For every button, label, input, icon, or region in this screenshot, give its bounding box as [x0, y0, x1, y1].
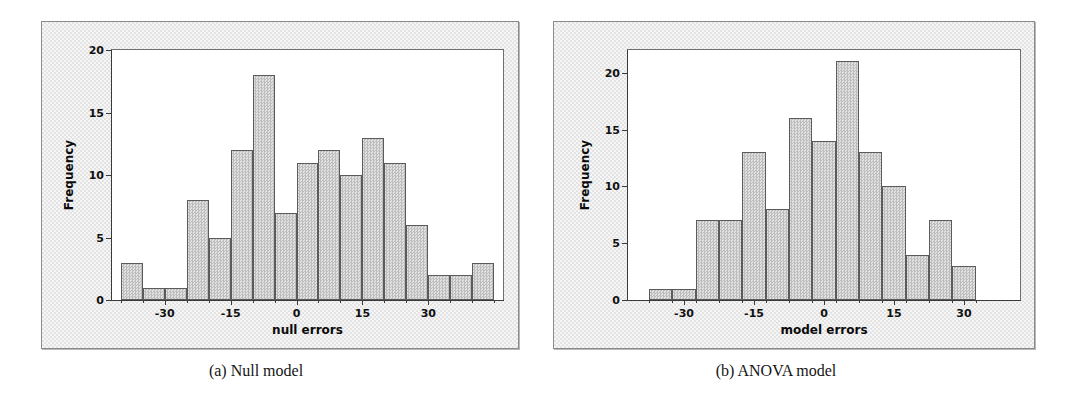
- figure-container: 05101520 -30-1501530 null errors Frequen…: [0, 0, 1070, 417]
- y-axis-null-model: 05101520: [111, 50, 112, 300]
- caption-null-model: (a) Null model: [209, 362, 303, 380]
- x-axis-tick-label: 30: [956, 307, 971, 320]
- x-axis-minor-tick: [812, 300, 813, 303]
- y-axis-tick-label: 0: [612, 294, 620, 307]
- x-axis-tick: [684, 300, 685, 305]
- histogram-bar: [143, 288, 165, 301]
- x-axis-minor-tick: [976, 300, 977, 303]
- x-axis-minor-tick: [187, 300, 188, 303]
- x-axis-tick-label: 15: [355, 307, 370, 320]
- y-axis-tick: [622, 73, 627, 74]
- plot-frame-null-model: [111, 49, 504, 301]
- y-axis-tick-label: 5: [96, 231, 104, 244]
- x-axis-tick-label: -30: [155, 307, 175, 320]
- histogram-bar: [696, 220, 719, 300]
- histogram-bar: [719, 220, 742, 300]
- x-axis-tick: [894, 300, 895, 305]
- x-axis-anova-model: -30-1501530: [627, 300, 1021, 301]
- x-axis-minor-tick: [121, 300, 122, 303]
- y-axis-title-anova-model: Frequency: [578, 140, 592, 210]
- x-axis-tick-label: -30: [674, 307, 694, 320]
- plot-area-null-model: [112, 50, 503, 300]
- histogram-bar: [253, 75, 275, 300]
- x-axis-minor-tick: [494, 300, 495, 303]
- x-axis-title-null-model: null errors: [272, 323, 343, 337]
- y-axis-tick-label: 0: [96, 294, 104, 307]
- histogram-bar: [882, 186, 905, 300]
- x-axis-minor-tick: [428, 300, 429, 303]
- x-axis-minor-tick: [836, 300, 837, 303]
- y-axis-tick: [622, 243, 627, 244]
- x-axis-minor-tick: [384, 300, 385, 303]
- bars-null-model: [112, 50, 503, 300]
- x-axis-minor-tick: [340, 300, 341, 303]
- x-axis-tick-label: -15: [221, 307, 241, 320]
- x-axis-minor-tick: [742, 300, 743, 303]
- histogram-bar: [906, 255, 929, 300]
- y-axis-tick-label: 10: [89, 169, 104, 182]
- x-axis-minor-tick: [859, 300, 860, 303]
- x-axis-minor-tick: [472, 300, 473, 303]
- x-axis-tick: [824, 300, 825, 305]
- x-axis-minor-tick: [450, 300, 451, 303]
- histogram-bar: [766, 209, 789, 300]
- x-axis-minor-tick: [766, 300, 767, 303]
- x-axis-tick-label: -15: [744, 307, 764, 320]
- histogram-panel-null-model: 05101520 -30-1501530 null errors Frequen…: [41, 21, 519, 349]
- x-axis-minor-tick: [906, 300, 907, 303]
- histogram-bar: [428, 275, 450, 300]
- y-axis-tick: [106, 113, 111, 114]
- histogram-bar: [406, 225, 428, 300]
- caption-anova-model: (b) ANOVA model: [716, 362, 837, 380]
- y-axis-tick-label: 15: [89, 106, 104, 119]
- y-axis-tick-label: 20: [89, 44, 104, 57]
- x-axis-tick-label: 30: [421, 307, 436, 320]
- x-axis-null-model: -30-1501530: [111, 300, 504, 301]
- x-axis-minor-tick: [789, 300, 790, 303]
- x-axis-minor-tick: [882, 300, 883, 303]
- histogram-bar: [318, 150, 340, 300]
- x-axis-tick: [754, 300, 755, 305]
- histogram-bar: [789, 118, 812, 300]
- y-axis-anova-model: 05101520: [627, 50, 628, 300]
- x-axis-minor-tick: [297, 300, 298, 303]
- y-axis-tick: [106, 238, 111, 239]
- histogram-bar: [859, 152, 882, 300]
- histogram-bar: [812, 141, 835, 300]
- bars-anova-model: [628, 50, 1020, 300]
- x-axis-minor-tick: [143, 300, 144, 303]
- x-axis-tick: [964, 300, 965, 305]
- histogram-bar: [340, 175, 362, 300]
- y-axis-tick-label: 15: [605, 123, 620, 136]
- plot-frame-anova-model: [627, 49, 1021, 301]
- histogram-bar: [929, 220, 952, 300]
- y-axis-tick: [622, 186, 627, 187]
- y-axis-tick: [622, 130, 627, 131]
- histogram-bar: [275, 213, 297, 301]
- histogram-bar: [384, 163, 406, 301]
- y-axis-tick: [106, 50, 111, 51]
- y-axis-tick-label: 20: [605, 66, 620, 79]
- x-axis-minor-tick: [696, 300, 697, 303]
- x-axis-minor-tick: [231, 300, 232, 303]
- x-axis-title-anova-model: model errors: [780, 323, 867, 337]
- histogram-bar: [836, 61, 859, 300]
- histogram-bar: [209, 238, 231, 301]
- x-axis-minor-tick: [952, 300, 953, 303]
- histogram-bar: [231, 150, 253, 300]
- x-axis-minor-tick: [672, 300, 673, 303]
- histogram-bar: [121, 263, 143, 301]
- x-axis-minor-tick: [209, 300, 210, 303]
- y-axis-tick: [106, 175, 111, 176]
- x-axis-minor-tick: [649, 300, 650, 303]
- x-axis-minor-tick: [362, 300, 363, 303]
- histogram-bar: [742, 152, 765, 300]
- x-axis-minor-tick: [253, 300, 254, 303]
- y-axis-title-null-model: Frequency: [62, 140, 76, 210]
- x-axis-minor-tick: [929, 300, 930, 303]
- x-axis-tick-label: 0: [820, 307, 828, 320]
- y-axis-tick-label: 5: [612, 237, 620, 250]
- histogram-panel-anova-model: 05101520 -30-1501530 model errors Freque…: [553, 21, 1035, 349]
- histogram-bar: [672, 289, 695, 300]
- x-axis-minor-tick: [406, 300, 407, 303]
